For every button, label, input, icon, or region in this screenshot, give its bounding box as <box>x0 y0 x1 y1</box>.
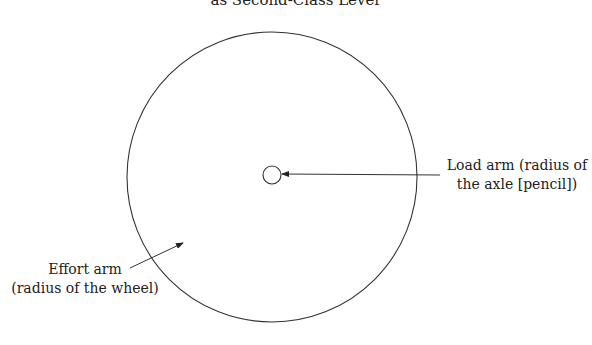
load-arm-label-line1: Load arm (radius of <box>442 156 592 175</box>
effort-arm-label-line1: Effort arm <box>10 260 160 279</box>
load-arm-label: Load arm (radius of the axle [pencil]) <box>442 156 592 194</box>
axle-circle <box>263 166 281 184</box>
load-arm-label-line2: the axle [pencil]) <box>442 175 592 194</box>
wheel-circle <box>127 32 417 322</box>
effort-arm-label: Effort arm (radius of the wheel) <box>10 260 160 298</box>
effort-arm-label-line2: (radius of the wheel) <box>10 279 160 298</box>
load-arm-arrow <box>282 174 440 175</box>
